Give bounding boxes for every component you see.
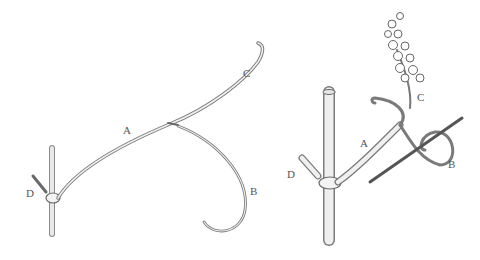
illustration: A B C D A B C D	[0, 0, 480, 260]
left-label-c: C	[243, 67, 250, 79]
left-label-b: B	[250, 185, 257, 197]
right-label-a: A	[360, 137, 368, 149]
right-figure	[302, 50, 462, 240]
left-label-a: A	[123, 124, 131, 136]
right-label-c: C	[417, 91, 424, 103]
left-figure	[33, 43, 263, 234]
right-label-d: D	[287, 168, 295, 180]
left-label-d: D	[26, 187, 34, 199]
right-label-b: B	[448, 158, 455, 170]
tendril-engraving: A B C D A B C D	[0, 0, 480, 260]
